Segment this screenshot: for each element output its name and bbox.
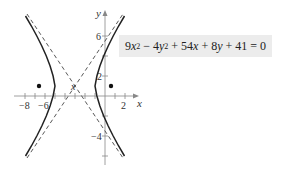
equation-term: + 8	[198, 39, 217, 54]
equation-term: − 4	[140, 39, 159, 54]
equation-term: + 54	[168, 39, 193, 54]
x-axis	[14, 93, 139, 99]
y-axis	[102, 10, 108, 165]
focus-point	[109, 84, 113, 88]
y-tick-label: −4	[91, 131, 102, 142]
y-tick-label: 6	[96, 31, 101, 42]
x-tick-label: −8	[19, 100, 30, 111]
y-axis-arrow-icon	[103, 10, 108, 16]
y-axis-label: y	[95, 7, 101, 19]
hyperbola-graph: −8 −6 2 6 2 −4 x y x	[0, 0, 281, 169]
x-tick-label: 2	[121, 100, 126, 111]
equation-box: 9x2 − 4y2 + 54x + 8y + 41 = 0	[119, 35, 272, 57]
focus-point	[37, 84, 41, 88]
x-axis-label: x	[136, 97, 142, 109]
center-marker: x	[70, 81, 76, 92]
equation-term: + 41 = 0	[223, 39, 267, 54]
x-tick-label: −6	[38, 100, 49, 111]
